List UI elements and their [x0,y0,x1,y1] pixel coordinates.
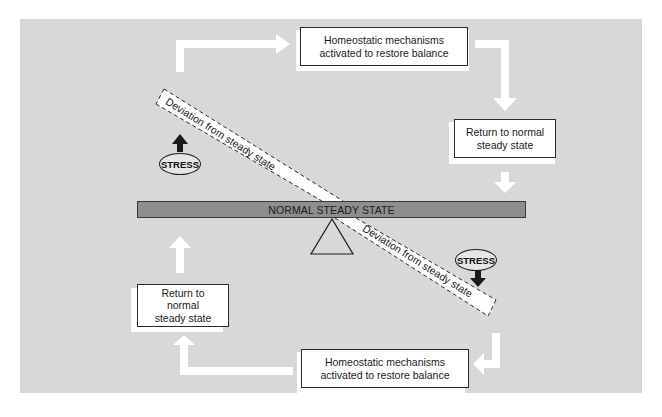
up-arrow-icon [172,134,188,152]
top-right-elbow-arrow-icon [475,40,517,111]
right-down-arrow-icon [494,172,516,193]
bottom-box-line2: activated to restore balance [321,369,450,382]
stress-upper-oval: STRESS [159,153,201,175]
top-left-elbow-arrow-icon [176,34,290,72]
normal-steady-state-beam: NORMAL STEADY STATE [137,201,526,218]
top-mechanisms-box: Homeostatic mechanisms activated to rest… [300,27,468,66]
right-box-line1: Return to normal [466,126,544,139]
left-box-line3: steady state [155,312,212,325]
stress-lower-label: STRESS [457,255,495,266]
down-arrow-icon [470,271,486,287]
beam-label: NORMAL STEADY STATE [268,204,394,216]
left-box-line1: Return to [155,287,212,300]
right-return-box: Return to normal steady state [454,119,556,158]
left-box-line2: normal [155,299,212,312]
bottom-right-elbow-arrow-icon [473,333,500,375]
bottom-mechanisms-box: Homeostatic mechanisms activated to rest… [301,349,469,388]
top-box-line2: activated to restore balance [320,47,449,60]
bottom-left-elbow-arrow-icon [173,335,293,375]
stress-lower-oval: STRESS [455,249,497,271]
bottom-box-line1: Homeostatic mechanisms [321,356,450,369]
stress-upper-label: STRESS [161,159,199,170]
left-up-arrow-icon [169,236,191,273]
right-box-line2: steady state [466,139,544,152]
top-box-line1: Homeostatic mechanisms [320,34,449,47]
left-return-box: Return to normal steady state [137,284,229,327]
